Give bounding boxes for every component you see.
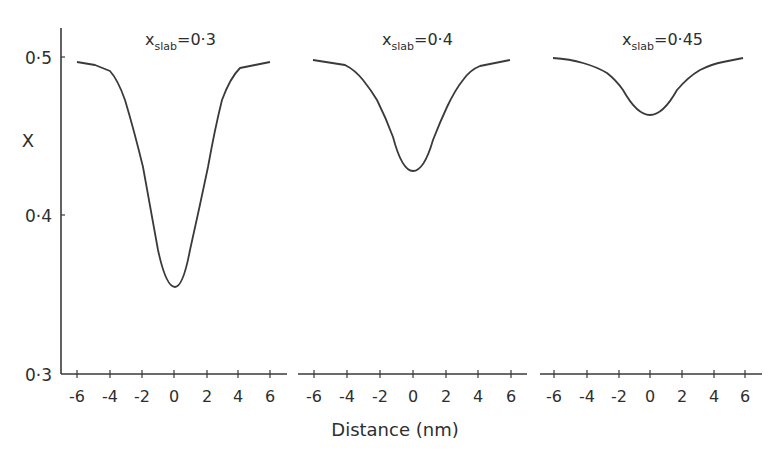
x-tick-label: 0 (408, 387, 418, 406)
panel-2: xslab=0·4 -6 -4 -2 0 2 4 6 (298, 30, 527, 406)
x-tick-label: 4 (473, 387, 483, 406)
x-tick-label: 0 (169, 387, 179, 406)
y-axis-label: X (22, 130, 34, 151)
x-tick-label: 2 (677, 387, 687, 406)
x-tick-label: -4 (339, 387, 355, 406)
panel-1-curve (77, 62, 270, 287)
x-axis-label: Distance (nm) (331, 419, 458, 440)
x-tick-label: -4 (102, 387, 118, 406)
panel-3: xslab=0·45 -6 -4 -2 0 2 4 6 (540, 30, 762, 406)
panel-2-title: xslab=0·4 (382, 30, 453, 53)
panel-1-title: xslab=0·3 (145, 30, 216, 53)
x-tick-label: -2 (134, 387, 150, 406)
x-tick-label: 2 (441, 387, 451, 406)
y-tick-label-0-3: 0·3 (25, 365, 52, 385)
x-tick-label: 4 (233, 387, 243, 406)
panel-3-title: xslab=0·45 (622, 30, 703, 53)
chart-figure: 0·5 0·4 0·3 X xslab=0·3 -6 -4 -2 0 2 4 6 (0, 0, 784, 461)
x-tick-label: 4 (709, 387, 719, 406)
x-tick-label: 6 (506, 387, 516, 406)
y-tick-label-0-5: 0·5 (25, 48, 52, 68)
x-tick-label: -2 (611, 387, 627, 406)
x-tick-label: -6 (306, 387, 322, 406)
x-tick-label: 6 (740, 387, 750, 406)
y-axis: 0·5 0·4 0·3 X (22, 28, 65, 385)
panel-3-curve (553, 58, 743, 115)
x-tick-label: -6 (546, 387, 562, 406)
panel-2-curve (313, 60, 510, 171)
x-tick-label: 6 (265, 387, 275, 406)
x-tick-label: -6 (69, 387, 85, 406)
x-tick-label: 2 (202, 387, 212, 406)
x-tick-label: -4 (579, 387, 595, 406)
y-tick-label-0-4: 0·4 (25, 206, 52, 226)
x-tick-label: 0 (645, 387, 655, 406)
x-tick-label: -2 (372, 387, 388, 406)
panel-1: xslab=0·3 -6 -4 -2 0 2 4 6 (61, 30, 287, 406)
